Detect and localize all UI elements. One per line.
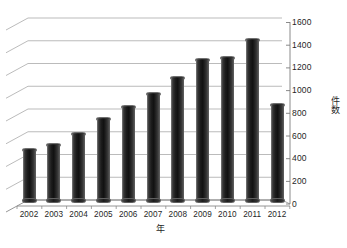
bar-2004 [72,132,85,200]
bar-2008 [171,76,184,201]
y-tick-1600: 1600 [292,18,312,27]
bar-2002 [23,148,36,200]
y-tick-1400: 1400 [292,41,312,50]
y-tick-1000: 1000 [292,86,312,95]
x-axis-tick-labels: 2002 2003 2004 2005 2006 2007 2008 2009 … [0,210,347,224]
bar-foot [96,198,111,203]
x-tick-2012: 2012 [262,210,292,220]
bar-foot [270,198,285,203]
bar-2009 [196,58,209,200]
bar-foot [46,198,61,203]
bar-foot [195,198,210,203]
bar-foot [22,198,37,203]
bar-2012 [271,103,284,200]
bar-2011 [246,38,259,200]
bar-body [271,105,284,200]
bar-body [47,145,60,200]
bar-foot [71,198,86,203]
bar-body [147,94,160,200]
bar-body [122,107,135,201]
bar-2007 [147,92,160,200]
bar-2005 [97,117,110,200]
bar-foot [121,198,136,203]
bar-body [97,119,110,200]
bar-foot [146,198,161,203]
plot-area: 1600 1400 1200 1000 800 600 400 200 0 件数… [0,0,347,248]
bar-foot [170,198,185,203]
y-tick-0: 0 [292,200,297,209]
bar-body [246,40,259,200]
y-axis-title: 件数 [326,96,340,114]
y-tick-200: 200 [292,177,307,186]
bar-2010 [221,56,234,200]
bar-body [221,58,234,200]
bar-body [72,134,85,200]
y-tick-800: 800 [292,109,307,118]
bar-foot [220,198,235,203]
bar-chart: 1600 1400 1200 1000 800 600 400 200 0 件数… [0,0,347,248]
bar-body [23,150,36,200]
bar-foot [245,198,260,203]
bar-body [196,60,209,200]
bar-2003 [47,143,60,200]
x-axis-title: 年 [0,224,320,235]
y-tick-600: 600 [292,132,307,141]
y-tick-1200: 1200 [292,63,312,72]
bar-body [171,78,184,201]
bar-2006 [122,105,135,201]
y-tick-400: 400 [292,154,307,163]
